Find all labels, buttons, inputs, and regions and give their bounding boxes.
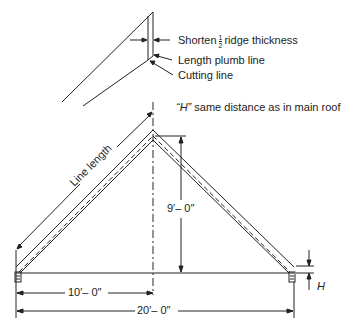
h-quote: “H” [176,101,191,113]
h-note-text: same distance as in main roof [194,101,340,113]
span-label: 20′– 0″ [137,305,170,316]
rise-label: 9′– 0″ [167,203,194,214]
h-dimension-label: H [317,281,325,292]
detail-rafter-bottom-edge [83,60,148,106]
fraction-half: 12 [219,34,223,49]
shorten-label: Shorten12ridge thickness [178,34,298,49]
h-note: “H” same distance as in main roof [176,102,340,113]
half-span-label: 10′– 0″ [68,287,101,298]
shorten-suffix: ridge thickness [224,34,297,46]
length-plumb-line-label: Length plumb line [178,55,265,66]
cutting-line-label: Cutting line [178,70,233,81]
shorten-prefix: Shorten [178,34,217,46]
fraction-denominator: 2 [219,42,223,49]
fraction-numerator: 1 [219,34,223,42]
